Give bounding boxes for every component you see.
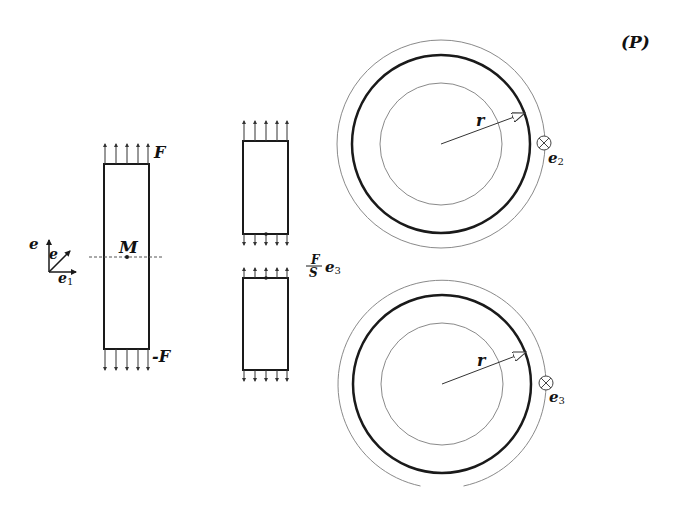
diagram-canvas: (P) F -F M e e e1 (0, 0, 686, 520)
cut-piece-top (243, 121, 288, 245)
svg-text:e3: e3 (325, 258, 341, 276)
into-page-icon (537, 136, 551, 150)
top-force-arrows (105, 144, 148, 164)
left-bar (89, 144, 164, 370)
top-force-label: F (153, 143, 167, 162)
bottom-force-label: -F (152, 347, 172, 366)
bottom-force-arrows (105, 349, 148, 370)
cross-section-top (337, 40, 551, 248)
panel-label: (P) (621, 32, 650, 52)
svg-text:S: S (309, 266, 318, 280)
point-m-label: M (118, 237, 139, 257)
stress-label: F S e3 (306, 253, 341, 280)
normal-label-bottom: e3 (549, 388, 565, 406)
cut-piece-bottom (243, 268, 288, 381)
radius-label-top: r (476, 111, 486, 130)
normal-label-top: e2 (548, 149, 564, 167)
cross-section-bottom (338, 280, 553, 486)
axis-depth-label: e (49, 246, 58, 262)
axis-vertical-label: e (29, 235, 39, 253)
svg-text:F: F (310, 253, 321, 267)
